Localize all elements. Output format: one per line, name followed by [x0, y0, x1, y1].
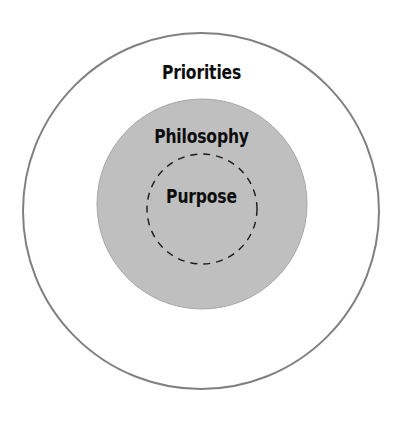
diagram-canvas: Priorities Philosophy Purpose: [0, 0, 403, 426]
ring-label-purpose: Purpose: [36, 187, 366, 206]
ring-label-priorities: Priorities: [36, 63, 366, 82]
ring-label-philosophy: Philosophy: [36, 127, 366, 146]
